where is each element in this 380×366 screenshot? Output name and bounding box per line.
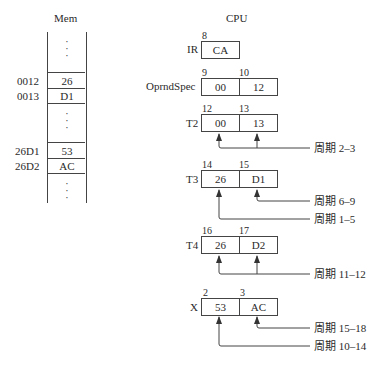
arrow-t2-high	[219, 134, 310, 148]
arrow-x-high	[219, 317, 310, 346]
arrow-x-low	[257, 317, 310, 328]
cycle-label: 周期 1–5	[314, 213, 355, 225]
cycle-label: 周期 6–9	[314, 195, 355, 207]
arrow-t3-high	[219, 190, 310, 219]
cycle-label: 周期 11–12	[314, 268, 366, 280]
cycle-label: 周期 15–18	[314, 322, 366, 334]
arrow-t4-high	[219, 256, 310, 274]
cycle-label: 周期 10–14	[314, 340, 366, 352]
cycle-label: 周期 2–3	[314, 142, 355, 154]
arrow-connectors	[0, 0, 380, 366]
arrow-t3-low	[257, 190, 310, 201]
